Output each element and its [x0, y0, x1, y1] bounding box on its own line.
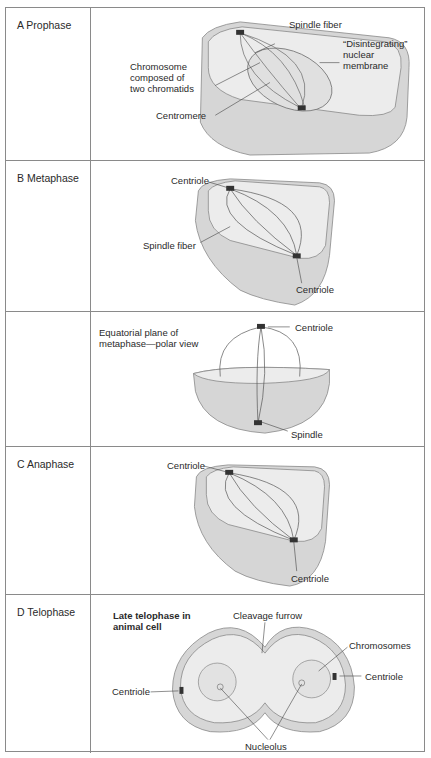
label-cleavage-furrow: Cleavage furrow: [233, 610, 302, 621]
row-metaphase-polar-view: Equatorial plane of metaphase—polar view…: [6, 312, 424, 447]
label-centriole: Centriole: [295, 322, 333, 333]
phase-label-cell: C Anaphase: [6, 447, 91, 594]
label-centromere: Centromere: [156, 110, 206, 121]
label-animal-cell: animal cell: [113, 621, 162, 632]
label-chromosome: Chromosome: [130, 61, 187, 72]
anaphase-cell-illustration: [91, 447, 424, 594]
metaphase-figure: Centriole Spindle fiber Centriole: [91, 161, 424, 311]
label-centriole-top: Centriole: [167, 460, 205, 471]
phase-label-cell: B Metaphase: [6, 161, 91, 311]
label-equatorial-plane: Equatorial plane of: [99, 327, 178, 338]
row-prophase: A Prophase Spindle fiber “Disintegrating…: [6, 8, 424, 161]
label-centriole-left: Centriole: [112, 686, 150, 697]
label-composed-of: composed of: [130, 72, 184, 83]
label-spindle-fiber: Spindle fiber: [289, 19, 342, 30]
polar-view-figure: Equatorial plane of metaphase—polar view…: [91, 312, 424, 446]
phase-label: D Telophase: [17, 606, 75, 618]
prophase-figure: Spindle fiber “Disintegrating” nuclear m…: [91, 8, 424, 160]
phase-label-cell: D Telophase: [6, 595, 91, 753]
mitosis-phases-table: A Prophase Spindle fiber “Disintegrating…: [5, 7, 425, 752]
label-spindle: Spindle: [291, 429, 323, 440]
metaphase-cell-illustration: [91, 161, 424, 311]
label-nucleolus: Nucleolus: [245, 741, 287, 752]
label-polar-view: metaphase—polar view: [99, 338, 198, 349]
label-disintegrating: “Disintegrating”: [343, 38, 407, 49]
telophase-figure: Late telophase in animal cell Cleavage f…: [91, 595, 424, 753]
phase-label-cell: [6, 312, 91, 446]
label-centriole-right: Centriole: [365, 671, 403, 682]
label-membrane: membrane: [343, 60, 388, 71]
phase-label: B Metaphase: [17, 172, 79, 184]
row-metaphase: B Metaphase Centriole Spindle fiber Cent…: [6, 161, 424, 312]
label-nuclear: nuclear: [343, 49, 374, 60]
label-centriole-bottom: Centriole: [296, 284, 334, 295]
row-anaphase: C Anaphase Centriole Centriole: [6, 447, 424, 595]
anaphase-figure: Centriole Centriole: [91, 447, 424, 594]
phase-label-cell: A Prophase: [6, 8, 91, 160]
label-centriole-bottom: Centriole: [291, 573, 329, 584]
label-late-telophase: Late telophase in: [113, 610, 191, 621]
label-spindle-fiber: Spindle fiber: [143, 240, 196, 251]
label-centriole-top: Centriole: [171, 175, 209, 186]
row-telophase: D Telophase Late telophase in animal c: [6, 595, 424, 753]
phase-label: A Prophase: [17, 19, 71, 31]
label-chromosomes: Chromosomes: [349, 640, 411, 651]
label-two-chromatids: two chromatids: [130, 83, 194, 94]
phase-label: C Anaphase: [17, 458, 74, 470]
